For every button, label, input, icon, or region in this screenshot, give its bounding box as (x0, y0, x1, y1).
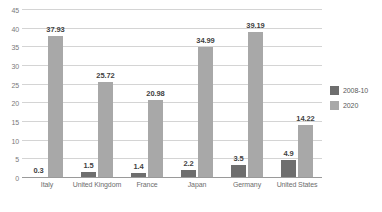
bar-slot: 37.93 (48, 10, 63, 178)
y-axis-tick: 35 (12, 44, 19, 51)
bar-value-label: 39.19 (246, 22, 264, 30)
bar-slot: 3.5 (231, 10, 246, 178)
category-label: Germany (222, 180, 272, 210)
bar[interactable] (281, 160, 296, 178)
bar-value-label: 25.72 (96, 72, 114, 80)
y-axis-tick: 40 (12, 25, 19, 32)
y-axis-tick: 25 (12, 81, 19, 88)
bar-group: 1.525.72 (72, 10, 122, 178)
bar[interactable] (198, 47, 213, 178)
y-axis-tick: 5 (15, 156, 19, 163)
plot-area: 0.337.931.525.721.420.982.234.993.539.19… (22, 10, 322, 178)
legend-label: 2008-10 (343, 87, 368, 95)
bar[interactable] (298, 125, 313, 178)
y-axis-tick: 20 (12, 100, 19, 107)
bar[interactable] (48, 36, 63, 178)
bar-value-label: 14.22 (296, 115, 314, 123)
bar-value-label: 20.98 (146, 90, 164, 98)
bar-value-label: 3.5 (233, 155, 243, 163)
y-axis-tick: 0 (15, 175, 19, 182)
bar-group: 4.914.22 (272, 10, 322, 178)
category-label: United Kingdom (72, 180, 122, 210)
bar-value-label: 1.5 (83, 162, 93, 170)
y-axis-tick: 10 (12, 137, 19, 144)
legend-item[interactable]: 2020 (330, 101, 382, 110)
category-label: France (122, 180, 172, 210)
bar-slot: 20.98 (148, 10, 163, 178)
bar-value-label: 2.2 (183, 160, 193, 168)
bar-value-label: 34.99 (196, 37, 214, 45)
bar[interactable] (248, 32, 263, 178)
bar-slot: 39.19 (248, 10, 263, 178)
category-label: Japan (172, 180, 222, 210)
category-label: United States (272, 180, 322, 210)
y-axis: 051015202530354045 (0, 0, 22, 178)
y-axis-tick: 15 (12, 119, 19, 126)
plot-wrapper: 051015202530354045 0.337.931.525.721.420… (0, 0, 330, 212)
bar[interactable] (98, 82, 113, 178)
bar-group: 1.420.98 (122, 10, 172, 178)
category-label: Italy (22, 180, 72, 210)
bar-slot: 25.72 (98, 10, 113, 178)
bar-slot: 34.99 (198, 10, 213, 178)
bar-value-label: 1.4 (133, 163, 143, 171)
bar-value-label: 37.93 (46, 26, 64, 34)
chart-legend: 2008-102020 (330, 86, 382, 116)
y-axis-tick: 45 (12, 7, 19, 14)
bar-group: 0.337.93 (22, 10, 72, 178)
bar-slot: 4.9 (281, 10, 296, 178)
bar-value-label: 4.9 (283, 150, 293, 158)
bar-slot: 1.4 (131, 10, 146, 178)
bar[interactable] (148, 100, 163, 178)
legend-swatch-icon (330, 101, 339, 110)
legend-item[interactable]: 2008-10 (330, 86, 382, 95)
legend-swatch-icon (330, 86, 339, 95)
bar-group: 3.539.19 (222, 10, 272, 178)
bar-value-label: 0.3 (33, 167, 43, 175)
bar-slot: 2.2 (181, 10, 196, 178)
legend-label: 2020 (343, 102, 358, 110)
x-axis-line (22, 177, 322, 178)
bar-groups: 0.337.931.525.721.420.982.234.993.539.19… (22, 10, 322, 178)
category-axis: ItalyUnited KingdomFranceJapanGermanyUni… (22, 180, 322, 210)
bar-slot: 1.5 (81, 10, 96, 178)
y-axis-tick: 30 (12, 63, 19, 70)
bar-slot: 0.3 (31, 10, 46, 178)
bar-group: 2.234.99 (172, 10, 222, 178)
bar-chart: 051015202530354045 0.337.931.525.721.420… (0, 0, 382, 212)
bar-slot: 14.22 (298, 10, 313, 178)
